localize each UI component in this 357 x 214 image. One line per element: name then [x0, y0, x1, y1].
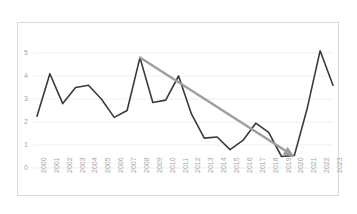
data-series-line: [37, 51, 333, 157]
x-axis-tick-label: 2000: [40, 157, 47, 173]
x-axis-tick-label: 2015: [233, 157, 240, 173]
x-axis-tick-label: 2013: [207, 157, 214, 173]
x-axis-tick-label: 2010: [169, 157, 176, 173]
x-axis-tick-label: 2017: [259, 157, 266, 173]
y-axis-tick-label: 2: [14, 118, 28, 125]
x-axis-tick-label: 2019: [285, 157, 292, 173]
x-axis-tick-label: 2004: [91, 157, 98, 173]
y-axis-tick-label: 3: [14, 95, 28, 102]
x-axis-tick-label: 2011: [182, 158, 189, 173]
x-axis-tick-label: 2016: [246, 157, 253, 173]
x-axis-tick-label: 2022: [323, 157, 330, 173]
x-axis-tick-label: 2005: [104, 157, 111, 173]
x-axis-tick-label: 2008: [143, 157, 150, 173]
trend-arrow-annotation: [140, 58, 294, 157]
y-axis-tick-label: 0: [14, 164, 28, 171]
y-axis-tick-label: 4: [14, 72, 28, 79]
x-axis-tick-label: 2007: [130, 157, 137, 173]
x-axis-tick-label: 2009: [156, 157, 163, 173]
y-axis-tick-label: 1: [14, 141, 28, 148]
x-axis-tick-label: 2012: [194, 157, 201, 173]
x-axis-tick-label: 2021: [310, 157, 317, 173]
line-chart: [0, 0, 357, 214]
x-axis-tick-label: 2002: [66, 157, 73, 173]
x-axis-tick-label: 2003: [79, 157, 86, 173]
x-axis-tick-label: 2023: [336, 157, 343, 173]
x-axis-tick-label: 2006: [117, 157, 124, 173]
x-axis-tick-label: 2014: [220, 157, 227, 173]
x-axis-tick-label: 2018: [272, 157, 279, 173]
y-axis-tick-label: 5: [14, 49, 28, 56]
x-axis-tick-label: 2001: [53, 157, 60, 173]
x-axis-tick-label: 2020: [297, 157, 304, 173]
